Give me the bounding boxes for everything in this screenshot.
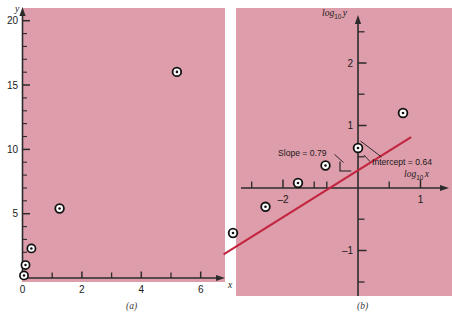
figure-two-panel-log-log-plot: 5 10 15 20 0 2 4 6 y x [0, 0, 452, 319]
panel-a-y-axis-label: y [14, 4, 20, 14]
panel-a-xtick-label-6: 6 [198, 284, 204, 295]
panel-b-ytick-label-neg1: –1 [342, 245, 354, 256]
data-point-marker [55, 204, 64, 213]
panel-b: –1 1 2 –2 1 log10y log10x [224, 8, 452, 296]
data-point-marker [173, 68, 182, 77]
data-point-marker [261, 203, 270, 212]
panel-b-x-axis-label-text: log [404, 169, 416, 179]
data-point-marker [229, 229, 238, 238]
panel-b-ytick-label-1: 1 [347, 120, 353, 131]
panel-a: 5 10 15 20 0 2 4 6 y x [7, 4, 233, 295]
panel-b-y-axis-label-subscript: 10 [334, 13, 342, 20]
panel-a-xtick-label-2: 2 [79, 284, 85, 295]
panel-b-ytick-label-2: 2 [347, 58, 353, 69]
panel-b-xtick-label-1: 1 [418, 194, 424, 205]
data-point-marker [27, 244, 35, 252]
panel-b-y-axis-label-text: log [322, 8, 334, 18]
panel-b-x-axis-label-subscript: 10 [416, 174, 424, 181]
panel-b-y-axis-label-variable: y [342, 8, 348, 18]
slope-annotation-label: Slope = 0.79 [278, 148, 327, 158]
data-point-marker [20, 271, 28, 279]
panel-a-ytick-label-20: 20 [7, 15, 19, 26]
panel-a-caption: (a) [126, 301, 137, 311]
panel-a-background [22, 8, 225, 282]
panel-b-caption: (b) [357, 301, 368, 311]
figure-canvas: 5 10 15 20 0 2 4 6 y x [0, 0, 452, 319]
data-point-marker [399, 109, 408, 118]
panel-b-xtick-label-neg2: –2 [277, 194, 289, 205]
panel-a-x-axis-label: x [227, 280, 233, 290]
panel-a-ytick-label-15: 15 [7, 80, 19, 91]
data-point-marker [294, 179, 303, 188]
panel-a-ytick-label-10: 10 [7, 144, 19, 155]
intercept-annotation-label: Intercept = 0.64 [372, 157, 432, 167]
data-point-marker [354, 144, 363, 153]
panel-b-x-axis-label-variable: x [424, 169, 430, 179]
panel-a-ytick-label-5: 5 [12, 208, 18, 219]
data-point-marker [321, 161, 330, 170]
panel-a-xtick-label-4: 4 [139, 284, 145, 295]
panel-a-xtick-label-0: 0 [20, 284, 26, 295]
data-point-marker [21, 261, 29, 269]
